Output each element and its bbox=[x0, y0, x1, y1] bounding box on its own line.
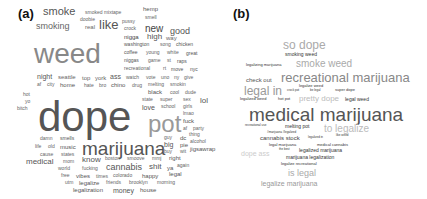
word: young bbox=[146, 50, 160, 55]
word: legalized weed bbox=[240, 97, 266, 101]
word: legalizing marijuana bbox=[246, 63, 281, 67]
word: world bbox=[58, 166, 70, 171]
word: the best bbox=[279, 148, 290, 151]
word: again bbox=[177, 163, 189, 168]
word: af bbox=[183, 126, 187, 131]
word: chino bbox=[111, 82, 125, 88]
word: high bbox=[147, 33, 162, 41]
word: right bbox=[169, 155, 181, 161]
word: #marijuana #legalized bbox=[267, 131, 296, 134]
word: wit bbox=[180, 149, 186, 154]
word: uno bbox=[161, 75, 169, 80]
word: song bbox=[160, 42, 171, 47]
word: smoked mixtape bbox=[85, 10, 121, 15]
word: dc bbox=[180, 135, 186, 141]
word: real bbox=[85, 24, 95, 30]
word: friends bbox=[106, 180, 121, 185]
word: watch bbox=[126, 75, 139, 80]
word: legal weed bbox=[345, 97, 369, 102]
word: top bbox=[82, 75, 90, 81]
word: pussy bbox=[122, 19, 135, 24]
word: boston bbox=[105, 156, 120, 161]
word: fuck bbox=[183, 118, 194, 124]
word: washington bbox=[124, 42, 149, 47]
word: money bbox=[113, 187, 134, 194]
word: bitch bbox=[17, 106, 28, 111]
word: city bbox=[47, 82, 55, 87]
word-cloud-a: (a) smokesmoked mixtapehempsmellsmokingd… bbox=[0, 0, 220, 199]
word: jigsawrap bbox=[190, 146, 215, 152]
word: cannabis bbox=[106, 163, 142, 172]
word: yo bbox=[25, 99, 30, 104]
word: pot bbox=[148, 112, 181, 136]
word: alcohol bbox=[190, 139, 206, 144]
word: so dope bbox=[283, 39, 326, 51]
word: super dope bbox=[335, 88, 355, 92]
word: home bbox=[60, 82, 75, 88]
word: crock bbox=[124, 26, 136, 31]
word: vibes bbox=[76, 173, 90, 179]
word: niggas bbox=[124, 58, 139, 63]
word: legalization bbox=[73, 187, 103, 193]
word: dope bbox=[38, 96, 131, 138]
word: buy bbox=[164, 149, 172, 154]
word: super bbox=[160, 97, 173, 102]
word-cloud-b: (b) so dopesmoking weedlegalizing mariju… bbox=[220, 0, 427, 199]
word: chicken bbox=[176, 42, 193, 47]
word: house bbox=[140, 187, 156, 193]
word: smokin bbox=[170, 82, 186, 87]
word: ass bbox=[110, 73, 121, 80]
word: state bbox=[142, 97, 153, 102]
word: af bbox=[37, 82, 41, 87]
word: recreational use bbox=[245, 124, 266, 127]
word: utm bbox=[65, 180, 73, 185]
word: smells bbox=[60, 136, 74, 141]
word: doobie bbox=[80, 17, 95, 22]
word: mom bbox=[63, 159, 74, 164]
word: black bbox=[148, 89, 162, 95]
word: legalize marijuana bbox=[261, 180, 317, 187]
word: morning bbox=[157, 180, 175, 185]
word: know bbox=[82, 156, 101, 164]
word: check out bbox=[246, 77, 272, 83]
word: legalize bbox=[79, 180, 99, 186]
word: give bbox=[184, 75, 193, 80]
word: music bbox=[60, 144, 76, 150]
word: melting bbox=[148, 82, 164, 87]
word: legalized marijuana bbox=[299, 148, 342, 153]
word: melting pot bbox=[285, 124, 309, 129]
word: smell bbox=[145, 15, 157, 20]
panel-label-b: (b) bbox=[233, 7, 250, 20]
word: move bbox=[171, 67, 183, 72]
word: free bbox=[61, 173, 70, 178]
word: is legal bbox=[288, 169, 316, 178]
word: smoove bbox=[127, 156, 145, 161]
word: sex bbox=[183, 97, 191, 102]
word: brooklyn bbox=[129, 180, 148, 185]
word: smoking weed bbox=[285, 52, 317, 57]
word: vote bbox=[146, 75, 155, 80]
word: cool bbox=[170, 90, 179, 95]
word: raps bbox=[177, 59, 187, 64]
word: girls bbox=[183, 104, 192, 109]
word: st bbox=[167, 58, 171, 63]
word: weed bbox=[34, 40, 101, 68]
word: like weed bbox=[336, 134, 349, 137]
word: lmao bbox=[183, 111, 194, 116]
word: dude bbox=[185, 90, 196, 95]
word: cannabis stock bbox=[260, 135, 300, 141]
word: legalize recreational bbox=[281, 162, 317, 166]
word: marijuana legalization bbox=[286, 155, 334, 160]
word: legal bbox=[169, 171, 182, 177]
word: recreational bbox=[124, 66, 150, 71]
word: shit bbox=[149, 163, 161, 171]
word: hot bbox=[23, 92, 30, 97]
word: states bbox=[61, 152, 74, 157]
word: be legal bbox=[310, 89, 321, 92]
word: hot pot bbox=[278, 97, 290, 101]
word: night bbox=[37, 73, 52, 80]
word: fucking bbox=[82, 166, 98, 171]
word: old bbox=[48, 144, 55, 149]
word: medical marijuana bbox=[249, 105, 403, 124]
word: york bbox=[95, 75, 106, 81]
